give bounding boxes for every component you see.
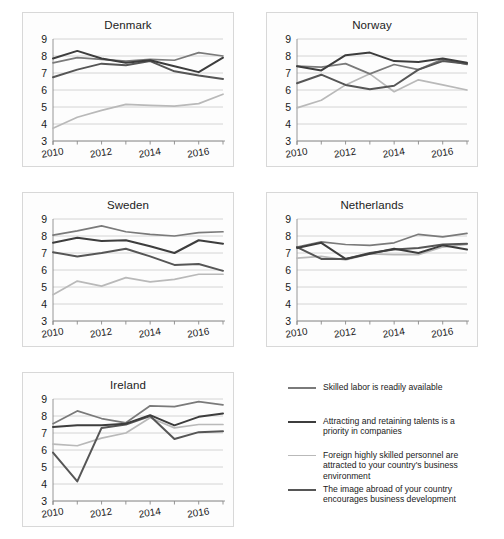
svg-text:2012: 2012	[89, 325, 113, 339]
svg-text:5: 5	[41, 461, 47, 473]
svg-text:5: 5	[285, 281, 291, 293]
legend-label: Foreign highly skilled personnel are att…	[323, 450, 473, 481]
svg-text:2014: 2014	[382, 325, 406, 339]
svg-text:6: 6	[41, 264, 47, 276]
svg-text:2012: 2012	[89, 145, 113, 159]
svg-text:4: 4	[285, 298, 291, 310]
legend-swatch-icon	[288, 387, 316, 389]
legend-item-skilled-labor: Skilled labor is readily available	[288, 382, 442, 392]
svg-text:4: 4	[41, 478, 47, 490]
svg-text:8: 8	[285, 230, 291, 242]
svg-text:3: 3	[285, 315, 291, 327]
legend-swatch-icon	[288, 489, 316, 491]
svg-text:5: 5	[41, 101, 47, 113]
panel-ireland: Ireland 34567892010201220142016	[22, 372, 234, 527]
svg-text:2016: 2016	[186, 325, 210, 339]
svg-text:2012: 2012	[333, 145, 357, 159]
legend-item-foreign-personnel: Foreign highly skilled personnel are att…	[288, 450, 473, 481]
panel-norway: Norway 34567892010201220142016	[266, 12, 478, 167]
line-chart-sweden: 34567892010201220142016	[23, 193, 235, 348]
chart-legend: Skilled labor is readily available Attra…	[288, 378, 500, 533]
svg-text:7: 7	[285, 247, 291, 259]
svg-text:2010: 2010	[285, 145, 309, 159]
chart-grid: Denmark 34567892010201220142016 Norway 3…	[0, 0, 504, 539]
svg-text:2016: 2016	[186, 505, 210, 519]
svg-text:8: 8	[41, 50, 47, 62]
svg-text:7: 7	[41, 247, 47, 259]
legend-swatch-icon	[288, 455, 316, 456]
line-chart-denmark: 34567892010201220142016	[23, 13, 235, 168]
line-chart-netherlands: 34567892010201220142016	[267, 193, 479, 348]
legend-item-attracting-talents: Attracting and retaining talents is a pr…	[288, 416, 473, 437]
svg-text:9: 9	[41, 213, 47, 225]
svg-text:2014: 2014	[138, 325, 162, 339]
svg-text:3: 3	[41, 495, 47, 507]
svg-text:4: 4	[41, 298, 47, 310]
svg-text:2016: 2016	[430, 325, 454, 339]
svg-text:6: 6	[285, 84, 291, 96]
svg-text:6: 6	[41, 84, 47, 96]
legend-label: Attracting and retaining talents is a pr…	[323, 416, 473, 437]
legend-label: Skilled labor is readily available	[323, 382, 442, 392]
svg-text:8: 8	[285, 50, 291, 62]
svg-text:2014: 2014	[138, 145, 162, 159]
svg-text:7: 7	[285, 67, 291, 79]
svg-text:9: 9	[285, 213, 291, 225]
svg-text:8: 8	[41, 230, 47, 242]
svg-text:2010: 2010	[285, 325, 309, 339]
legend-label: The image abroad of your country encoura…	[323, 484, 473, 505]
svg-text:4: 4	[285, 118, 291, 130]
svg-text:7: 7	[41, 427, 47, 439]
svg-text:2012: 2012	[89, 505, 113, 519]
svg-text:9: 9	[285, 33, 291, 45]
legend-item-image-abroad: The image abroad of your country encoura…	[288, 484, 473, 505]
legend-swatch-icon	[288, 421, 316, 423]
svg-text:4: 4	[41, 118, 47, 130]
line-chart-ireland: 34567892010201220142016	[23, 373, 235, 528]
line-chart-norway: 34567892010201220142016	[267, 13, 479, 168]
svg-text:9: 9	[41, 33, 47, 45]
panel-sweden: Sweden 34567892010201220142016	[22, 192, 234, 347]
svg-text:2010: 2010	[41, 325, 65, 339]
svg-text:2010: 2010	[41, 505, 65, 519]
svg-text:7: 7	[41, 67, 47, 79]
svg-text:9: 9	[41, 393, 47, 405]
svg-text:3: 3	[41, 135, 47, 147]
svg-text:3: 3	[285, 135, 291, 147]
svg-text:2010: 2010	[41, 145, 65, 159]
svg-text:2014: 2014	[382, 145, 406, 159]
svg-text:5: 5	[285, 101, 291, 113]
svg-text:6: 6	[285, 264, 291, 276]
svg-text:2012: 2012	[333, 325, 357, 339]
svg-text:5: 5	[41, 281, 47, 293]
svg-text:8: 8	[41, 410, 47, 422]
svg-text:6: 6	[41, 444, 47, 456]
panel-netherlands: Netherlands 34567892010201220142016	[266, 192, 478, 347]
svg-text:2016: 2016	[430, 145, 454, 159]
panel-denmark: Denmark 34567892010201220142016	[22, 12, 234, 167]
svg-text:2014: 2014	[138, 505, 162, 519]
svg-text:2016: 2016	[186, 145, 210, 159]
svg-text:3: 3	[41, 315, 47, 327]
